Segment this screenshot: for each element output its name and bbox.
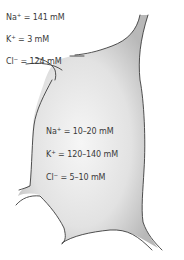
intracellular-chloride-label: Cl− = 5–10 mM bbox=[46, 173, 105, 182]
extracellular-potassium-label: K+ = 3 mM bbox=[6, 35, 49, 44]
extracellular-chloride-label: Cl− = 124 mM bbox=[6, 57, 62, 66]
neuron-ion-diagram: Na+ = 141 mM K+ = 3 mM Cl− = 124 mM Na+ … bbox=[0, 0, 184, 260]
intracellular-sodium-label: Na+ = 10–20 mM bbox=[46, 127, 114, 136]
extracellular-sodium-label: Na+ = 141 mM bbox=[6, 13, 65, 22]
intracellular-potassium-label: K+ = 120–140 mM bbox=[46, 150, 118, 159]
